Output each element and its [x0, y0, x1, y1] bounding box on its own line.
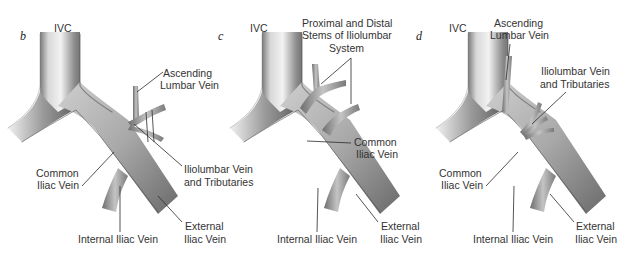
label-ivc-b: IVC	[54, 22, 72, 34]
panel-letter-c: c	[218, 29, 224, 43]
vein-tree-c	[230, 32, 400, 214]
label-stems-c-1: Proximal and Distal	[302, 17, 392, 29]
label-external-iliac-d-2: Iliac Vein	[575, 233, 617, 245]
label-iliolumbar-d-2: and Tributaries	[540, 78, 609, 90]
label-ascending-lumbar-d-2: Lumbar Vein	[490, 29, 549, 41]
label-stems-c-2: Stems of Iliolumbar	[302, 29, 392, 41]
label-iliolumbar-b-1: Iliolumbar Vein	[184, 163, 253, 175]
label-common-iliac-d-2: Iliac Vein	[441, 179, 483, 191]
label-external-iliac-c-2: Iliac Vein	[380, 233, 422, 245]
label-ascending-lumbar-b-1: Ascending	[163, 67, 212, 79]
label-common-iliac-d-1: Common	[439, 167, 482, 179]
iliac-vein-anatomy-figure: b IVC Ascending Lumbar Vein Common Iliac…	[0, 0, 634, 253]
label-internal-iliac-d: Internal Iliac Vein	[473, 233, 553, 245]
label-ascending-lumbar-d-1: Ascending	[494, 17, 543, 29]
label-ivc-d: IVC	[449, 22, 467, 34]
panel-c: c IVC Proximal and Distal Stems of Iliol…	[218, 17, 422, 245]
label-internal-iliac-c: Internal Iliac Vein	[277, 233, 357, 245]
label-external-iliac-d-1: External	[576, 220, 615, 232]
panel-b: b IVC Ascending Lumbar Vein Common Iliac…	[8, 22, 253, 245]
panel-letter-b: b	[20, 29, 26, 43]
panel-letter-d: d	[416, 29, 423, 43]
label-common-iliac-b-1: Common	[36, 167, 79, 179]
label-internal-iliac-b: Internal Iliac Vein	[78, 233, 158, 245]
panel-d: d IVC Ascending Lumbar Vein Iliolumbar V…	[416, 17, 617, 245]
label-stems-c-3: System	[329, 42, 364, 54]
label-iliolumbar-d-1: Iliolumbar Vein	[541, 65, 610, 77]
label-common-iliac-c-1: Common	[354, 136, 397, 148]
label-external-iliac-b-2: Iliac Vein	[184, 233, 226, 245]
label-common-iliac-c-2: Iliac Vein	[356, 148, 398, 160]
label-ivc-c: IVC	[250, 22, 268, 34]
label-ascending-lumbar-b-2: Lumbar Vein	[160, 79, 219, 91]
label-common-iliac-b-2: Iliac Vein	[37, 179, 79, 191]
label-iliolumbar-b-2: and Tributaries	[184, 176, 253, 188]
label-external-iliac-c-1: External	[381, 220, 420, 232]
label-external-iliac-b-1: External	[185, 220, 224, 232]
